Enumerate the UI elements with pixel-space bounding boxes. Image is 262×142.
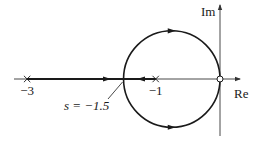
root-locus-diagram: Re Im −3 −1 s = −1.5 (0, 0, 262, 142)
breakaway-leader-line (108, 82, 123, 99)
zero-marker (217, 76, 223, 82)
direction-arrow-bottom (168, 125, 176, 130)
pole-label: −1 (149, 83, 163, 98)
direction-arrow-left (137, 76, 145, 81)
pole-label: −3 (20, 83, 34, 98)
imag-axis-label: Im (201, 4, 215, 19)
real-axis-label: Re (234, 86, 249, 101)
direction-arrow-top (168, 28, 176, 33)
breakaway-label: s = −1.5 (64, 98, 110, 113)
direction-arrow-right (103, 76, 111, 81)
